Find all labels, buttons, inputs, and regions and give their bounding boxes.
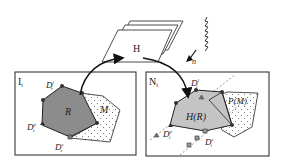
homography-planes: H [102,21,183,62]
point-left-bottom-square [68,135,72,139]
homography-label: H [133,43,140,54]
panel-left: It R M Dlt Dpt Dst [15,72,136,155]
point-left-top [60,84,64,88]
point-right-lower-right [230,123,234,127]
mask-m-label: M [99,104,109,115]
region-hr-label: H(R) [185,111,207,123]
diagram-canvas: It R M Dlt Dpt Dst Ni [0,0,283,168]
point-right-square-2 [195,136,199,140]
region-r-label: R [64,106,71,117]
panel-right: Ni H(R) P(M) Dli Dpi Dsi [146,72,269,156]
light-label: n [192,57,196,66]
point-left-lower-right [95,121,99,125]
point-right-square-3 [187,143,191,147]
mask-pm-label: P(M) [227,96,247,106]
point-right-bottom-square [203,129,207,133]
point-left-upper-left [41,98,45,102]
light-direction-icon: n [186,17,208,66]
point-right-upper-left [174,101,178,105]
point-right-right [220,90,224,94]
